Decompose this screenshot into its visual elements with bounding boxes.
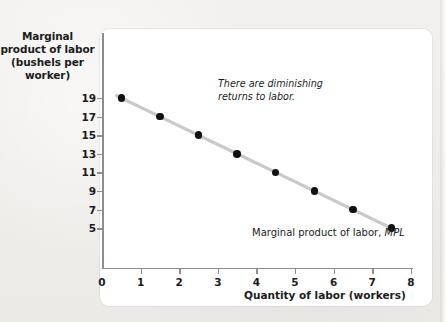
y-axis-title-line-1: Marginal [0,30,95,43]
y-tick-label: 11 [66,167,96,177]
note-line-1: There are diminishing [218,77,368,90]
x-tick-label: 3 [208,276,228,288]
y-axis-title: Marginal product of labor (bushels per w… [0,30,95,82]
x-tick-label-text: 2 [169,276,189,288]
page-edge-shadow [440,0,446,322]
data-point [349,206,357,214]
x-axis-title: Quantity of labor (workers) [244,289,406,301]
y-tick-label: 13 [66,149,96,159]
x-tick-label: 5 [285,276,305,288]
y-tick-label: 19 [66,93,96,103]
diminishing-returns-note: There are diminishing returns to labor. [218,77,368,103]
y-axis-title-line-4: worker) [0,69,95,82]
y-tick-label-text: 13 [70,149,96,159]
x-tick-label: 1 [131,276,151,288]
x-tick-label-text: 5 [285,276,305,288]
y-tick-label-text: 7 [70,205,96,215]
x-tick-label-text: 8 [401,276,421,288]
curve-label-text: Marginal product of labor, [252,227,381,238]
y-tick-label-text: 5 [70,223,96,233]
y-tick-label: 7 [66,205,96,215]
y-tick-label-text: 19 [70,93,96,103]
x-tick-label-text: 6 [324,276,344,288]
curve-label-symbol: MPL [385,227,405,238]
data-point [311,187,319,195]
note-line-2: returns to labor. [218,90,368,103]
x-tick-label: 2 [169,276,189,288]
y-axis-title-line-2: product of labor [0,43,95,56]
data-point [156,113,164,121]
x-tick-label-text: 7 [362,276,382,288]
y-tick-label: 17 [66,112,96,122]
curve-label: Marginal product of labor, MPL [252,227,405,238]
x-tick-label: 0 [92,276,112,288]
x-tick-label-text: 1 [131,276,151,288]
y-axis-title-line-3: (bushels per [0,56,95,69]
data-point [195,131,203,139]
y-tick-label-text: 11 [70,167,96,177]
y-tick-label: 9 [66,186,96,196]
data-point [118,94,126,102]
x-tick-label: 4 [246,276,266,288]
data-point [233,150,241,158]
y-tick-label: 15 [66,130,96,140]
x-tick-label-text: 3 [208,276,228,288]
y-tick-label: 5 [66,223,96,233]
x-tick-label: 8 [401,276,421,288]
x-tick-label: 7 [362,276,382,288]
y-tick-label-text: 9 [70,186,96,196]
x-tick-label-text: 4 [246,276,266,288]
y-tick-label-text: 17 [70,112,96,122]
x-tick-label: 6 [324,276,344,288]
y-tick-label-text: 15 [70,130,96,140]
x-tick-label-text: 0 [92,276,112,288]
